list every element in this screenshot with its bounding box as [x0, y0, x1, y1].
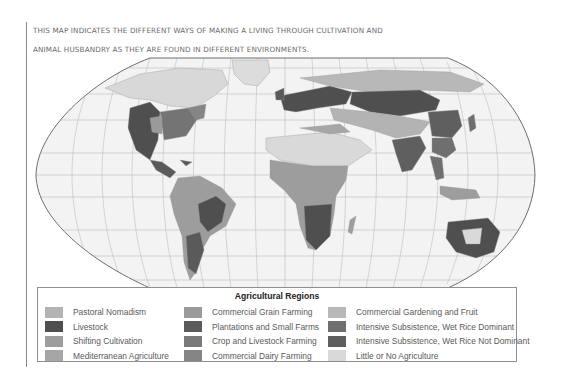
- legend-item-pastoral-nomadism: Pastoral Nomadism: [45, 305, 169, 320]
- legend-column-1: Pastoral Nomadism Livestock Shifting Cul…: [45, 305, 169, 363]
- legend-label: Commercial Grain Farming: [212, 307, 313, 317]
- swatch-intensive-wet-rice-dominant: [328, 321, 346, 332]
- legend-item-livestock: Livestock: [45, 320, 169, 335]
- swatch-livestock: [45, 321, 63, 332]
- legend-label: Intensive Subsistence, Wet Rice Not Domi…: [356, 336, 529, 346]
- swatch-crop-livestock-farming: [184, 336, 202, 347]
- legend-label: Commercial Dairy Farming: [212, 351, 312, 361]
- legend-item-commercial-dairy-farming: Commercial Dairy Farming: [184, 349, 319, 364]
- swatch-commercial-grain-farming: [184, 307, 202, 318]
- legend-item-shifting-cultivation: Shifting Cultivation: [45, 334, 169, 349]
- legend-label: Commercial Gardening and Fruit: [356, 307, 478, 317]
- swatch-plantations-small-farms: [184, 321, 202, 332]
- legend-item-little-no-agriculture: Little or No Agriculture: [328, 349, 529, 364]
- swatch-little-no-agriculture: [328, 350, 346, 361]
- swatch-pastoral-nomadism: [45, 307, 63, 318]
- legend-item-commercial-grain-farming: Commercial Grain Farming: [184, 305, 319, 320]
- legend-item-commercial-gardening-fruit: Commercial Gardening and Fruit: [328, 305, 529, 320]
- legend-label: Plantations and Small Farms: [212, 322, 319, 332]
- swatch-intensive-wet-rice-not-dominant: [328, 336, 346, 347]
- legend-label: Pastoral Nomadism: [73, 307, 146, 317]
- swatch-mediterranean-agriculture: [45, 350, 63, 361]
- legend-label: Livestock: [73, 322, 108, 332]
- legend-label: Shifting Cultivation: [73, 336, 142, 346]
- swatch-commercial-dairy-farming: [184, 350, 202, 361]
- legend-label: Intensive Subsistence, Wet Rice Dominant: [356, 322, 514, 332]
- legend-label: Crop and Livestock Farming: [212, 336, 317, 346]
- legend-item-intensive-wet-rice-not-dominant: Intensive Subsistence, Wet Rice Not Domi…: [328, 334, 529, 349]
- legend-column-2: Commercial Grain Farming Plantations and…: [184, 305, 319, 363]
- legend-item-plantations-small-farms: Plantations and Small Farms: [184, 320, 319, 335]
- legend-item-crop-livestock-farming: Crop and Livestock Farming: [184, 334, 319, 349]
- legend-label: Little or No Agriculture: [356, 351, 438, 361]
- legend-item-mediterranean-agriculture: Mediterranean Agriculture: [45, 349, 169, 364]
- swatch-shifting-cultivation: [45, 336, 63, 347]
- legend-item-intensive-wet-rice-dominant: Intensive Subsistence, Wet Rice Dominant: [328, 320, 529, 335]
- legend-title: Agricultural Regions: [38, 291, 516, 301]
- swatch-commercial-gardening-fruit: [328, 307, 346, 318]
- legend-column-3: Commercial Gardening and Fruit Intensive…: [328, 305, 529, 363]
- legend-label: Mediterranean Agriculture: [73, 351, 169, 361]
- map-legend: Agricultural Regions Pastoral Nomadism L…: [37, 287, 517, 362]
